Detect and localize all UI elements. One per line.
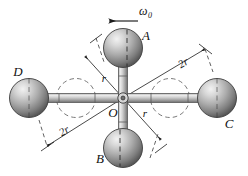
sphere-b bbox=[104, 129, 143, 168]
sphere-d bbox=[10, 79, 49, 118]
sphere-a-label: A bbox=[141, 28, 150, 43]
dimension-label-top-right: 2r bbox=[176, 55, 191, 71]
sphere-d-label: D bbox=[12, 64, 23, 79]
radius-label-upper-left: r bbox=[102, 72, 107, 84]
sphere-a bbox=[104, 29, 143, 68]
sphere-c-label: C bbox=[225, 116, 234, 131]
omega-subscript: 0 bbox=[148, 11, 152, 20]
hub-pivot bbox=[121, 96, 125, 100]
omega-label: ω bbox=[139, 4, 147, 18]
sphere-a-body bbox=[104, 29, 143, 68]
radius-label-lower-right: r bbox=[143, 107, 148, 119]
dimension-cap-sphere-a bbox=[90, 34, 102, 43]
extension-line-bottom-left bbox=[39, 120, 47, 146]
extension-line-top-right bbox=[205, 49, 213, 72]
center-label: O bbox=[108, 105, 118, 120]
figure-canvas: ω 0 A B C D O r r 2r 2r bbox=[0, 0, 248, 176]
extension-line-sphere-a bbox=[96, 38, 104, 62]
sphere-c bbox=[198, 79, 237, 118]
sphere-b-label: B bbox=[96, 151, 104, 166]
center-hub bbox=[118, 93, 128, 103]
dimension-label-bottom-left: 2r bbox=[57, 123, 72, 139]
dimension-cap-sphere-b bbox=[155, 144, 167, 153]
physics-figure: ω 0 A B C D O r r 2r 2r bbox=[0, 0, 248, 176]
dimension-cap-bottom-left bbox=[41, 142, 54, 151]
extension-lines-sphere-a bbox=[90, 34, 104, 62]
sphere-b-body bbox=[104, 129, 143, 168]
extension-line-sphere-b bbox=[150, 134, 158, 158]
